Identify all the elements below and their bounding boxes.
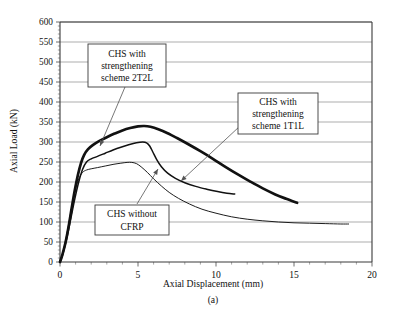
y-tick-label-50: 50 [44, 237, 54, 247]
y-tick-label-250: 250 [39, 157, 53, 167]
callout-1t1l-text-line-0: CHS with [259, 97, 297, 107]
x-tick-group [60, 262, 372, 267]
y-tick-label-400: 400 [39, 97, 53, 107]
y-axis-title: Axial Load (kN) [8, 109, 20, 173]
y-tick-label-350: 350 [39, 117, 53, 127]
x-tick-label-20: 20 [367, 269, 377, 280]
leader-lines-group [100, 87, 240, 204]
callout-2t2l-leader-line [100, 87, 125, 146]
curve-series-0 [60, 126, 297, 262]
sub-caption: (a) [208, 294, 219, 306]
callout-2t2l-arrowhead-icon [100, 140, 104, 146]
y-tick-group [56, 22, 60, 262]
callout-2t2l-text-line-0: CHS with [108, 49, 146, 59]
data-curves-group [60, 126, 349, 262]
callout-no-cfrp-arrowhead-icon [153, 169, 158, 175]
callout-1t1l-leader-line [181, 126, 240, 181]
callout-2t2l-text-line-1: strengthening [101, 61, 153, 71]
y-tick-label-600: 600 [39, 17, 53, 27]
callout-1t1l-text-line-2: scheme 1T1L [252, 121, 304, 131]
y-tick-label-500: 500 [39, 57, 53, 67]
y-tick-label-450: 450 [39, 77, 53, 87]
y-tick-label-150: 150 [39, 197, 53, 207]
axial-load-displacement-chart: 050100150200250300350400450500550600 051… [0, 0, 399, 317]
callout-1t1l-text-line-1: strengthening [252, 109, 304, 119]
y-tick-label-0: 0 [48, 257, 53, 267]
x-tick-label-5: 5 [136, 269, 141, 280]
callout-boxes-group: CHS withstrengtheningscheme 2T2LCHS with… [88, 44, 318, 235]
y-tick-label-100: 100 [39, 217, 53, 227]
x-axis-title: Axial Displacement (mm) [163, 278, 263, 290]
x-tick-label-15: 15 [289, 269, 299, 280]
figure-container: 050100150200250300350400450500550600 051… [0, 0, 399, 317]
y-tick-label-200: 200 [39, 177, 53, 187]
callout-no-cfrp-leader-line [137, 169, 158, 204]
y-tick-label-300: 300 [39, 137, 53, 147]
x-tick-label-0: 0 [58, 269, 63, 280]
y-tick-labels: 050100150200250300350400450500550600 [39, 17, 53, 267]
callout-no-cfrp-text-line-0: CHS without [107, 209, 157, 219]
y-tick-label-550: 550 [39, 37, 53, 47]
callout-no-cfrp-text-line-1: CFRP [120, 222, 143, 232]
callout-2t2l-text-line-2: scheme 2T2L [101, 73, 153, 83]
